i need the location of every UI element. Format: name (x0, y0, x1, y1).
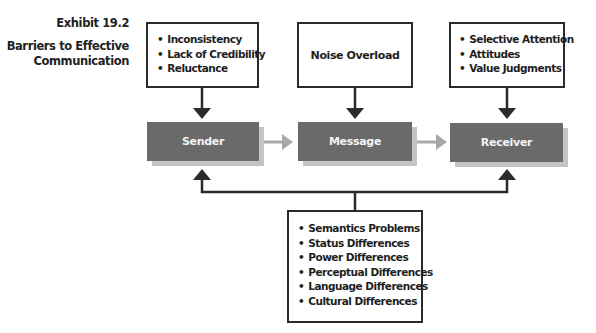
arrow-right-icon (282, 134, 293, 150)
node-message: Message (298, 122, 412, 161)
barrier-item: Power Differences (298, 250, 421, 265)
common-barriers-box: Semantics Problems Status Differences Po… (287, 210, 423, 323)
arrow-up-icon (193, 169, 211, 180)
barrier-label: Noise Overload (299, 49, 411, 62)
barrier-item: Lack of Credibility (157, 47, 257, 62)
barrier-item: Selective Attention (459, 32, 563, 47)
barrier-item: Value Judgments (459, 61, 563, 76)
barrier-item: Inconsistency (157, 32, 257, 47)
arrow-down-icon (498, 108, 516, 119)
sender-barriers-box: Inconsistency Lack of Credibility Reluct… (146, 22, 259, 88)
barrier-item: Cultural Differences (298, 294, 421, 309)
receiver-barriers-box: Selective Attention Attitudes Value Judg… (449, 22, 565, 88)
barrier-item: Semantics Problems (298, 221, 421, 236)
barrier-item: Status Differences (298, 236, 421, 251)
arrow-right-icon (436, 134, 447, 150)
arrow-up-icon (498, 169, 516, 180)
message-barrier-box: Noise Overload (297, 22, 413, 88)
arrow-down-icon (193, 108, 211, 119)
node-receiver: Receiver (450, 123, 563, 162)
node-sender: Sender (147, 122, 259, 161)
barrier-item: Attitudes (459, 47, 563, 62)
barrier-item: Perceptual Differences (298, 265, 421, 280)
arrow-down-icon (346, 108, 364, 119)
barrier-item: Reluctance (157, 61, 257, 76)
barrier-item: Language Differences (298, 279, 421, 294)
